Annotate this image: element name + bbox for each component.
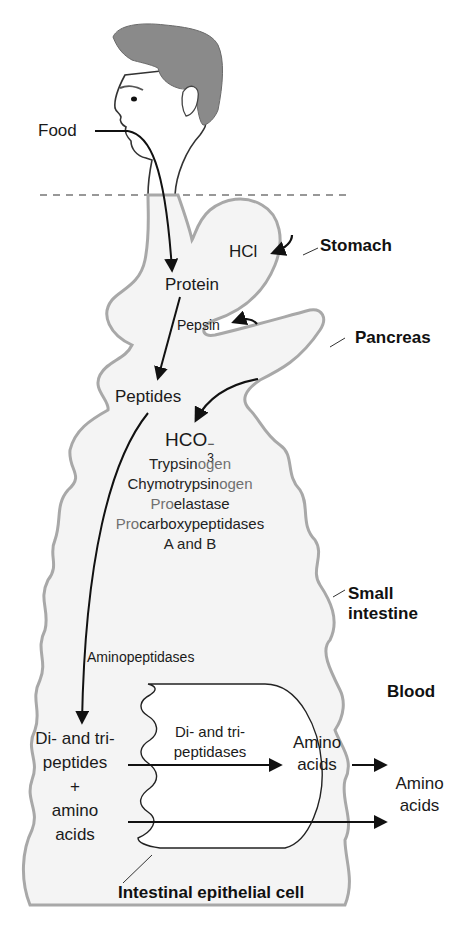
- pancreatic-enzyme-list: Trypsinogen Chymotrypsinogen Proelastase…: [90, 454, 290, 554]
- intestinal-epithelial-cell-label: Intestinal epithelial cell: [118, 884, 304, 901]
- peptides-label: Peptides: [115, 388, 181, 405]
- bicarbonate-label: HCO−3: [165, 430, 215, 449]
- cell-amino-acids-line1: Amino: [282, 732, 352, 754]
- aminopeptidases-label: Aminopeptidases: [87, 650, 194, 664]
- blood-amino-acids-label: Amino acids: [382, 773, 457, 817]
- bicarbonate-base: HCO: [165, 429, 207, 450]
- blood-label: Blood: [387, 683, 435, 700]
- bicarbonate-charge: −: [207, 438, 214, 450]
- di-tri-peptidases-line1: Di- and tri-: [160, 722, 260, 742]
- small-intestine-leader-line: [333, 590, 345, 597]
- head-icon: [113, 24, 223, 195]
- enzyme-proelastase: Proelastase: [90, 494, 290, 514]
- pancreas-leader-line: [330, 338, 345, 347]
- di-tri-peptides-line2: peptides: [20, 751, 130, 775]
- di-tri-peptides-amino-acids-label: Di- and tri- peptides + amino acids: [20, 727, 130, 847]
- pepsin-label: Pepsin: [177, 318, 220, 332]
- stomach-label: Stomach: [320, 237, 392, 254]
- di-tri-peptidases-line2: peptidases: [160, 742, 260, 762]
- protein-label: Protein: [165, 276, 219, 293]
- cell-amino-acids-label: Amino acids: [282, 732, 352, 776]
- hcl-label: HCl: [229, 243, 257, 260]
- protein-digestion-diagram: Food HCl Stomach Protein Pepsin Pancreas…: [0, 0, 459, 933]
- di-tri-peptidases-label: Di- and tri- peptidases: [160, 722, 260, 762]
- amino-acids-left-line1: amino: [20, 799, 130, 823]
- enzyme-procarboxypeptidases-types: A and B: [90, 534, 290, 554]
- pancreas-label: Pancreas: [355, 329, 431, 346]
- stomach-leader-line: [303, 248, 318, 255]
- cell-amino-acids-line2: acids: [282, 754, 352, 776]
- small-intestine-label-line2: intestine: [348, 605, 418, 622]
- amino-acids-left-line2: acids: [20, 823, 130, 847]
- small-intestine-label-line1: Small: [348, 585, 393, 602]
- di-tri-peptides-line1: Di- and tri-: [20, 727, 130, 751]
- plus-sign: +: [20, 775, 130, 799]
- blood-amino-acids-line1: Amino: [382, 773, 457, 795]
- enzyme-chymotrypsinogen: Chymotrypsinogen: [90, 474, 290, 494]
- food-label: Food: [38, 122, 77, 139]
- enzyme-trypsinogen: Trypsinogen: [90, 454, 290, 474]
- pepsin-arrow: [234, 319, 257, 324]
- blood-amino-acids-line2: acids: [382, 795, 457, 817]
- enzyme-procarboxypeptidases: Procarboxypeptidases: [90, 514, 290, 534]
